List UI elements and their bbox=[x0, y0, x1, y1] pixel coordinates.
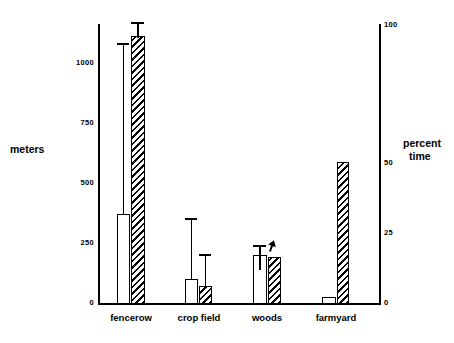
x-label-crop-field: crop field bbox=[163, 312, 235, 323]
errorbar-woods-meters bbox=[259, 245, 260, 270]
up-arrow-icon-woods-percent bbox=[269, 240, 279, 254]
errorbar-crop-field-meters bbox=[191, 218, 192, 279]
y-left-tick-1000: 1000 bbox=[62, 58, 94, 67]
errorbar-cap-crop-field-percent bbox=[199, 254, 211, 256]
y-right-tick-25: 25 bbox=[384, 228, 416, 237]
right-axis-title-line2: time bbox=[409, 151, 431, 162]
bar-chart: 1000 750 500 250 0 100 50 25 0 meters pe… bbox=[0, 0, 454, 343]
y-right-tick-0: 0 bbox=[384, 298, 416, 307]
errorbar-cap-crop-field-meters bbox=[185, 218, 197, 220]
y-left-tick-0: 0 bbox=[62, 298, 94, 307]
x-label-woods: woods bbox=[234, 312, 300, 323]
errorbar-cap-fencerow-meters bbox=[117, 43, 129, 45]
errorbar-crop-field-percent bbox=[205, 254, 206, 286]
left-axis-title: meters bbox=[10, 144, 44, 155]
y-right-tick-100: 100 bbox=[384, 20, 416, 29]
y-left-tick-250: 250 bbox=[62, 238, 94, 247]
bar-crop-field-percent bbox=[199, 286, 212, 304]
bar-farmyard-meters bbox=[322, 297, 336, 304]
right-axis-title-line1: percent bbox=[403, 138, 441, 149]
errorbar-fencerow-meters bbox=[123, 43, 124, 214]
errorbar-cap-fencerow-percent bbox=[131, 22, 144, 24]
bar-fencerow-percent bbox=[131, 36, 145, 304]
right-y-axis bbox=[379, 24, 381, 305]
x-label-fencerow: fencerow bbox=[96, 312, 166, 323]
bar-woods-percent bbox=[268, 257, 281, 304]
y-left-tick-500: 500 bbox=[62, 178, 94, 187]
bar-farmyard-percent bbox=[337, 162, 349, 304]
bar-crop-field-meters bbox=[185, 279, 198, 304]
bar-fencerow-meters bbox=[117, 214, 130, 304]
errorbar-cap-woods-meters bbox=[253, 245, 266, 247]
errorbar-fencerow-percent bbox=[137, 22, 138, 38]
left-y-axis bbox=[98, 24, 100, 305]
x-label-farmyard: farmyard bbox=[300, 312, 372, 323]
y-left-tick-750: 750 bbox=[62, 118, 94, 127]
